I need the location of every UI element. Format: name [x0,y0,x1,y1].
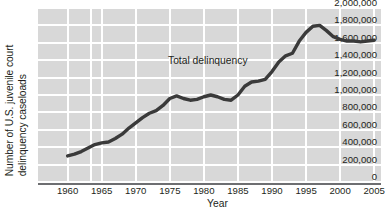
x-axis-tick-label: 1960 [57,186,78,196]
x-axis-tick-label: 1980 [193,186,214,196]
x-axis-title: Year [54,199,381,209]
y-axis-title: Number of U.S. juvenile court delinquenc… [0,0,40,182]
series-annotation-label: Total delinquency [168,55,248,66]
x-axis-tick-label: 1975 [159,186,180,196]
x-axis-tick-label: 1985 [227,186,248,196]
y-axis-tick-label: 2,000,000 [329,0,381,8]
x-axis-tick-label: 1970 [125,186,146,196]
series-line-total-delinquency [54,8,381,182]
y-axis-title-line-1: Number of U.S. juvenile court [5,44,15,176]
plot-area [54,8,381,182]
y-axis-title-line-2: delinquency caseloads [18,74,28,176]
chart-figure: Number of U.S. juvenile court delinquenc… [0,0,392,212]
x-axis-tick-label: 1990 [261,186,282,196]
x-axis-tick-label: 2000 [329,186,350,196]
x-axis-tick-label: 1965 [91,186,112,196]
x-axis-tick-label: 1995 [295,186,316,196]
x-axis-tick-label: 2005 [364,186,385,196]
